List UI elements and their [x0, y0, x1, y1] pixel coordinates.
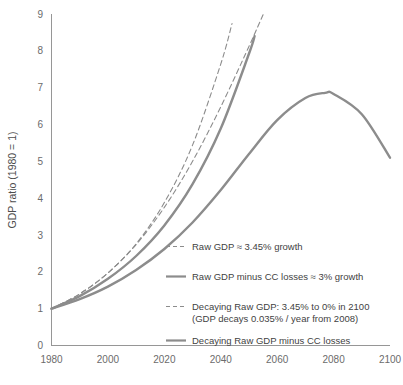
y-tick-label: 8	[37, 45, 43, 56]
chart-legend: Raw GDP ≈ 3.45% growthRaw GDP minus CC l…	[166, 241, 369, 346]
series-line-1	[52, 36, 255, 309]
legend-label-2: (GDP decays 0.035% / year from 2008)	[192, 313, 358, 324]
x-tick-label: 2020	[153, 354, 176, 365]
series-line-2	[52, 15, 264, 309]
x-tick-label: 2040	[210, 354, 233, 365]
gdp-ratio-line-chart: 0123456789 1980200020202040206020802100 …	[0, 0, 403, 385]
y-tick-label: 4	[37, 193, 43, 204]
y-tick-label: 3	[37, 230, 43, 241]
legend-label-1: Raw GDP minus CC losses ≈ 3% growth	[192, 271, 363, 282]
legend-label-3: Decaying Raw GDP minus CC losses	[192, 335, 350, 346]
series-paths	[52, 15, 391, 309]
y-tick-label: 7	[37, 82, 43, 93]
x-tick-label: 2080	[322, 354, 345, 365]
chart-svg: 0123456789 1980200020202040206020802100 …	[0, 0, 403, 385]
y-tick-label: 2	[37, 266, 43, 277]
y-tick-label: 9	[37, 9, 43, 20]
y-tick-label: 5	[37, 156, 43, 167]
x-tick-label: 2060	[266, 354, 289, 365]
x-tick-label: 2000	[97, 354, 120, 365]
x-tick-label: 2100	[379, 354, 402, 365]
y-tick-label: 6	[37, 119, 43, 130]
y-tick-label: 0	[37, 340, 43, 351]
y-tick-label: 1	[37, 303, 43, 314]
y-axis-title: GDP ratio (1980 = 1)	[6, 132, 18, 229]
x-axis-tick-labels: 1980200020202040206020802100	[40, 354, 401, 365]
y-axis-tick-labels: 0123456789	[37, 9, 43, 352]
legend-label-0: Raw GDP ≈ 3.45% growth	[192, 241, 303, 252]
legend-label-2: Decaying Raw GDP: 3.45% to 0% in 2100	[192, 301, 369, 312]
x-tick-label: 1980	[40, 354, 63, 365]
